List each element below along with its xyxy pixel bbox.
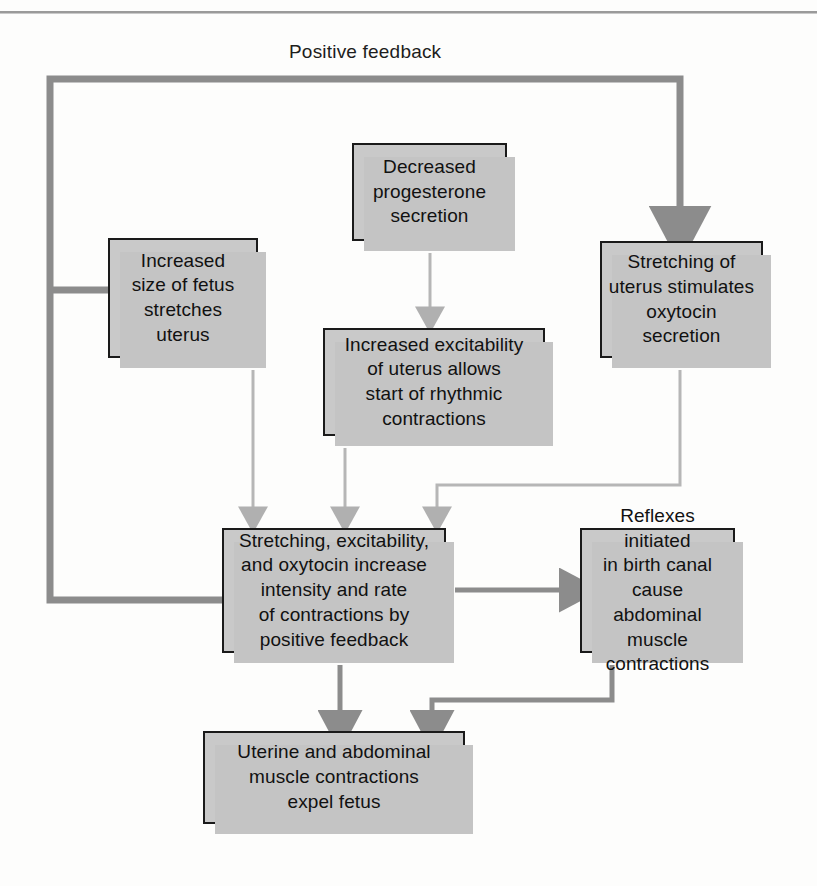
node-label: Reflexes initiated in birth canal cause … [582,504,733,677]
node-label: Stretching of uterus stimulates oxytocin… [603,250,760,349]
node-increased-size-of-fetus: Increased size of fetus stretches uterus [108,238,258,358]
node-decreased-progesterone-secretion: Decreased progesterone secretion [352,143,507,241]
node-label: Increased excitability of uterus allows … [339,333,530,432]
node-label: Decreased progesterone secretion [367,155,492,229]
node-increased-excitability-of-uterus: Increased excitability of uterus allows … [323,328,545,436]
node-reflexes-initiated-in-birth-canal: Reflexes initiated in birth canal cause … [580,528,735,653]
positive-feedback-parturition-figure: Positive feedback Decreased progesterone… [0,0,817,886]
node-stretching-stimulates-oxytocin: Stretching of uterus stimulates oxytocin… [600,241,763,358]
node-label: Stretching, excitability, and oxytocin i… [233,529,435,652]
node-uterine-abdominal-contractions-expel-fetus: Uterine and abdominal muscle contraction… [203,731,465,824]
node-label: Uterine and abdominal muscle contraction… [231,740,436,814]
node-label: Increased size of fetus stretches uterus [126,249,241,348]
node-stretching-excitability-oxytocin-increase: Stretching, excitability, and oxytocin i… [222,528,446,653]
positive-feedback-label: Positive feedback [289,41,441,63]
